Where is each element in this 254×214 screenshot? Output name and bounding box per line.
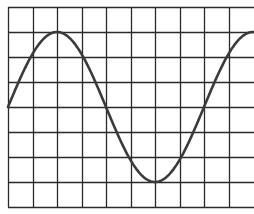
sine-wave-diagram: [0, 0, 254, 214]
